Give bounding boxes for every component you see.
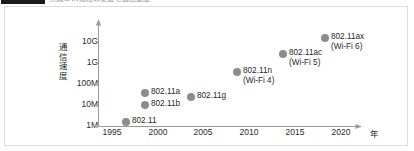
data-point-name: 802.11 [132, 116, 156, 125]
data-point-name: 802.11g [197, 91, 226, 100]
y-tick-label: 1G [87, 57, 98, 67]
caption-text: 無線LAN規格の変遷と通信速度 [50, 0, 151, 3]
data-point-name: 802.11n [243, 66, 272, 75]
data-point-name: 802.11b [151, 99, 180, 108]
y-tick-label: 100M [77, 78, 98, 88]
data-point-label: 802.11n (Wi-Fi 4) [243, 66, 274, 85]
figure-root: 無線LAN規格の変遷と通信速度 通信速度 10G 1G 100M 10M 1M … [0, 0, 414, 151]
chart-container: 通信速度 10G 1G 100M 10M 1M 1995 2000 2005 2… [4, 6, 408, 146]
caption-tag-block [1, 0, 45, 4]
y-axis-tick-labels: 10G 1G 100M 10M 1M [71, 7, 98, 147]
y-tick-label: 10G [82, 36, 98, 46]
data-point-marker [187, 93, 195, 101]
data-point-marker [141, 101, 149, 109]
data-point-label: 802.11a [151, 87, 180, 97]
data-point-alias: (Wi-Fi 5) [289, 58, 322, 68]
x-axis-tick-labels: 1995 2000 2005 2010 2015 2020 [5, 127, 409, 139]
x-tick-label: 2020 [332, 127, 351, 137]
data-point-label: 802.11ac (Wi-Fi 5) [289, 48, 322, 67]
x-tick-label: 2010 [240, 127, 259, 137]
data-point-marker [233, 68, 241, 76]
data-point-name: 802.11a [151, 87, 180, 96]
data-point-marker [122, 118, 130, 126]
data-point-label: 802.11b [151, 99, 180, 109]
data-point-name: 802.11ax [331, 32, 364, 41]
x-tick-label: 1995 [103, 127, 122, 137]
y-tick-label: 10M [81, 99, 98, 109]
data-point-label: 802.11ax (Wi-Fi 6) [331, 32, 364, 51]
y-axis-title: 通信速度 [57, 43, 69, 81]
data-point-alias: (Wi-Fi 6) [331, 42, 364, 52]
y-axis-title-text: 通信速度 [59, 42, 68, 81]
figure-caption-strip: 無線LAN規格の変遷と通信速度 [0, 0, 414, 5]
data-point-label: 802.11 [132, 116, 156, 126]
data-point-marker [321, 34, 329, 42]
data-point-name: 802.11ac [289, 48, 322, 57]
x-tick-label: 2000 [149, 127, 168, 137]
data-point-label: 802.11g [197, 91, 226, 101]
x-axis-title: 年 [370, 127, 379, 139]
data-point-alias: (Wi-Fi 4) [243, 76, 274, 86]
data-point-marker [279, 50, 287, 58]
data-point-marker [141, 89, 149, 97]
x-tick-label: 2015 [286, 127, 305, 137]
x-tick-label: 2005 [194, 127, 213, 137]
